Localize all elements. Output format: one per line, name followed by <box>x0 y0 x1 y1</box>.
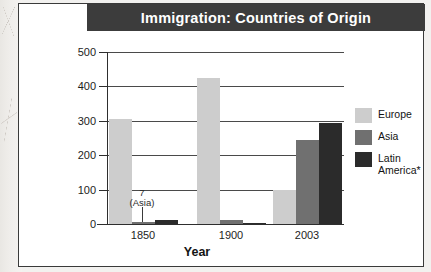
y-tick-label-0: 0 <box>90 218 96 230</box>
x-axis-line <box>97 224 344 225</box>
chart-figure: Immigration: Countries of Origin Number … <box>18 3 424 267</box>
bar-2003-asia <box>296 140 319 224</box>
gridline-400 <box>107 86 344 87</box>
asia-1850-annotation: 7 (Asia) <box>115 188 169 208</box>
legend-swatch-europe <box>355 108 372 123</box>
gridline-500 <box>107 52 344 53</box>
y-tick-mark-200 <box>99 155 107 156</box>
legend-swatch-latin-america <box>355 152 372 167</box>
y-tick-label-400: 400 <box>78 80 96 92</box>
y-axis-line <box>107 52 108 224</box>
gridline-300 <box>107 121 344 122</box>
legend-label-latin-america: Latin America* <box>378 152 421 177</box>
x-axis-title: Year <box>19 245 423 259</box>
y-tick-label-100: 100 <box>78 184 96 196</box>
legend-item-latin-america: Latin America* <box>355 152 421 177</box>
chart-title: Immigration: Countries of Origin <box>87 4 425 31</box>
y-axis-title: Number of Immigrants (in thousands) <box>39 0 79 52</box>
y-tick-mark-500 <box>99 52 107 53</box>
legend-item-asia: Asia <box>355 130 421 145</box>
annotation-leader-line <box>142 207 143 222</box>
x-tick-label-2003: 2003 <box>295 229 319 241</box>
x-axis-title-text: Year <box>184 245 210 259</box>
bar-1900-europe <box>197 78 220 224</box>
x-tick-label-1850: 1850 <box>131 229 155 241</box>
legend-label-asia: Asia <box>378 130 398 143</box>
y-tick-mark-400 <box>99 86 107 87</box>
y-tick-mark-100 <box>99 190 107 191</box>
y-tick-label-300: 300 <box>78 115 96 127</box>
bar-2003-europe <box>273 190 296 224</box>
bar-2003-latin-america <box>319 123 342 224</box>
y-tick-label-200: 200 <box>78 149 96 161</box>
legend-swatch-asia <box>355 130 372 145</box>
chart-legend: Europe Asia Latin America* <box>355 108 421 184</box>
legend-label-europe: Europe <box>378 108 412 121</box>
y-tick-mark-300 <box>99 121 107 122</box>
y-tick-label-500: 500 <box>78 46 96 58</box>
legend-item-europe: Europe <box>355 108 421 123</box>
x-tick-label-1900: 1900 <box>219 229 243 241</box>
